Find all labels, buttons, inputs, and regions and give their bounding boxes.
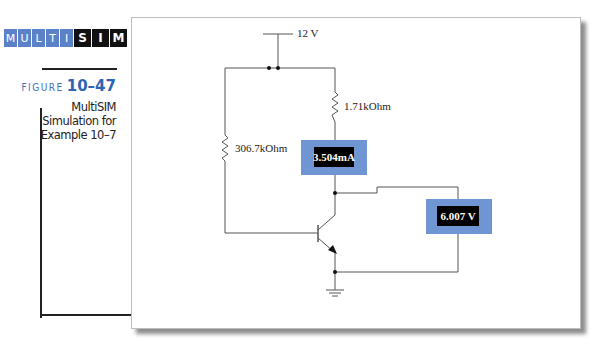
junction-dot [276, 66, 280, 70]
junction-dot [333, 191, 337, 195]
collector-resistor [332, 92, 338, 122]
ammeter: 3.504mA [301, 140, 367, 175]
junction-dot [333, 270, 337, 274]
base-resistor [222, 135, 228, 161]
ammeter-reading: 3.504mA [314, 147, 354, 167]
base-resistor-label: 306.7kOhm [235, 142, 287, 154]
circuit-schematic [0, 0, 612, 355]
junction-dot [267, 66, 271, 70]
voltmeter-reading: 6.007 V [437, 206, 479, 226]
voltmeter: 6.007 V [426, 199, 492, 234]
collector-resistor-label: 1.71kOhm [344, 100, 391, 112]
supply-label: 12 V [297, 27, 319, 39]
emitter-arrow [328, 245, 337, 254]
